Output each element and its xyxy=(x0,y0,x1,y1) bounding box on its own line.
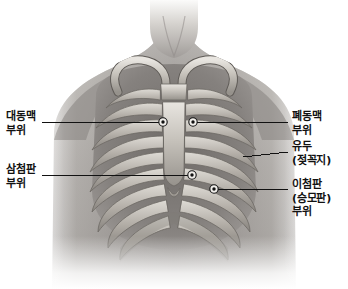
label-mitral-line-1: 이첨판 xyxy=(292,178,331,192)
label-aortic: 대동맥 부위 xyxy=(6,110,35,137)
label-nipple: 유두 (젖꼭지) xyxy=(292,140,331,167)
label-nipple-line-2: (젖꼭지) xyxy=(292,154,331,168)
label-nipple-line-1: 유두 xyxy=(292,140,331,154)
anatomy-figure: 대동맥 부위 삼첨판 부위 폐동맥 부위 유두 (젖꼭지) 이첨판 (승모판) … xyxy=(0,0,348,289)
pulmonic-marker xyxy=(189,118,197,126)
label-aortic-line-1: 대동맥 xyxy=(6,110,35,124)
label-tricuspid: 삼첨판 부위 xyxy=(6,163,35,190)
label-pulmonic-line-1: 폐동맥 xyxy=(292,110,321,124)
tricuspid-marker xyxy=(188,171,196,179)
label-mitral-line-2: (승모판) xyxy=(292,192,331,206)
aortic-marker xyxy=(159,118,167,126)
label-pulmonic-line-2: 부위 xyxy=(292,124,321,138)
label-tricuspid-line-2: 부위 xyxy=(6,177,35,191)
label-pulmonic: 폐동맥 부위 xyxy=(292,110,321,137)
label-mitral: 이첨판 (승모판) 부위 xyxy=(292,178,331,219)
mitral-marker xyxy=(210,185,218,193)
label-tricuspid-line-1: 삼첨판 xyxy=(6,163,35,177)
label-aortic-line-2: 부위 xyxy=(6,124,35,138)
label-mitral-line-3: 부위 xyxy=(292,205,331,219)
